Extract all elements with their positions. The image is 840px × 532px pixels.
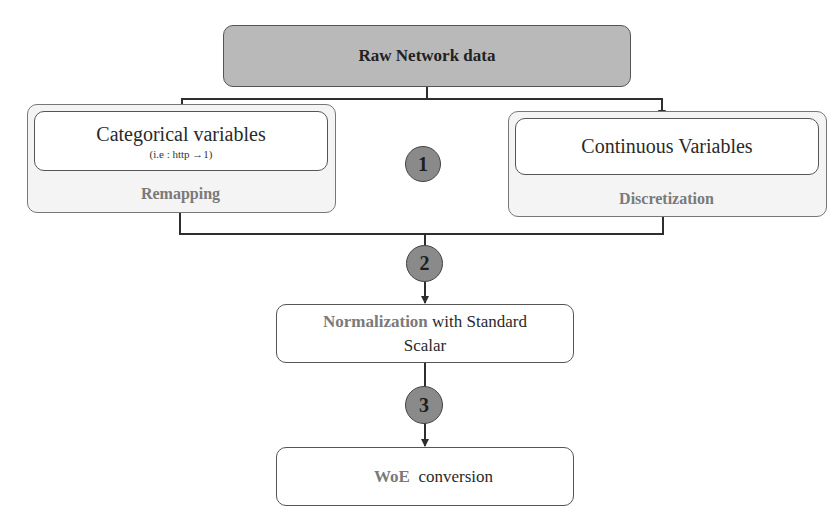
step-2-number: 2: [420, 252, 430, 275]
continuous-branch-box: Continuous Variables Discretization: [508, 111, 827, 217]
woe-conversion-box: WoE conversion: [276, 447, 574, 506]
connector-merge-horizontal: [179, 233, 664, 235]
continuous-variables-title: Continuous Variables: [581, 135, 752, 158]
step-1-number: 1: [418, 153, 428, 176]
step-3-number: 3: [419, 394, 429, 417]
woe-highlight: WoE: [374, 467, 410, 486]
remapping-label: Remapping: [28, 185, 333, 203]
raw-network-data-label: Raw Network data: [359, 46, 496, 66]
step-2-badge: 2: [406, 245, 443, 282]
step-1-badge: 1: [405, 146, 441, 182]
woe-text: conversion: [410, 467, 493, 486]
normalization-highlight: Normalization: [323, 312, 428, 331]
connector-merge-left: [179, 213, 181, 235]
normalization-text-line1: with Standard: [428, 312, 527, 331]
connector-split-horizontal: [181, 98, 663, 100]
raw-network-data-box: Raw Network data: [223, 25, 631, 87]
normalization-box: Normalization with Standard Scalar: [276, 304, 574, 363]
discretization-label: Discretization: [509, 190, 824, 208]
arrow-down-icon: [421, 296, 429, 304]
categorical-branch-box: Categorical variables (i.e : http →1) Re…: [27, 104, 336, 213]
categorical-variables-example: (i.e : http →1): [150, 148, 213, 160]
categorical-variables-box: Categorical variables (i.e : http →1): [34, 111, 328, 171]
categorical-variables-title: Categorical variables: [96, 123, 265, 146]
continuous-variables-box: Continuous Variables: [515, 118, 819, 175]
step-3-badge: 3: [405, 386, 443, 424]
normalization-text-line2: Scalar: [404, 336, 446, 355]
